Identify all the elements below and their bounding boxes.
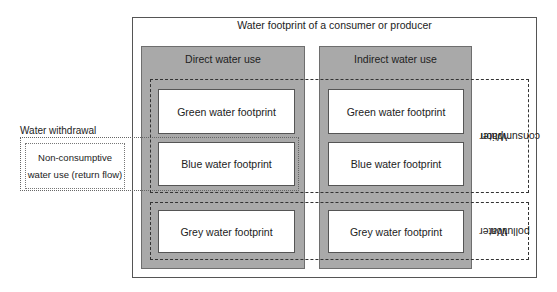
direct-water-use-label: Direct water use (142, 53, 304, 65)
non-consumptive-line2: water use (return flow) (28, 166, 123, 183)
consumption-line2: consumption (481, 128, 541, 145)
direct-grey-water-footprint: Grey water footprint (158, 210, 295, 253)
indirect-green-water-footprint: Green water footprint (328, 89, 464, 134)
water-consumption-label: Waterconsumption (478, 80, 526, 192)
pollution-line2: pollution (491, 223, 530, 240)
direct-green-water-footprint: Green water footprint (158, 89, 295, 134)
non-consumptive-line1: Non-consumptive (38, 149, 112, 166)
non-consumptive-water-use-box: Non-consumptive water use (return flow) (25, 143, 125, 189)
indirect-water-use-label: Indirect water use (320, 53, 471, 65)
diagram-title: Water footprint of a consumer or produce… (132, 19, 537, 31)
water-withdrawal-label: Water withdrawal (20, 125, 96, 136)
direct-blue-water-footprint: Blue water footprint (158, 142, 295, 186)
indirect-grey-water-footprint: Grey water footprint (328, 210, 464, 253)
indirect-blue-water-footprint: Blue water footprint (328, 142, 464, 186)
water-pollution-label: Waterpollution (478, 203, 526, 259)
